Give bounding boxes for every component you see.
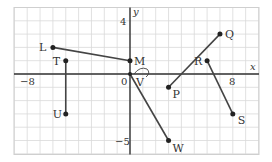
coordinate-plane: x y 0 −8 8 4 −5 LMTUVWPQRS [0, 0, 272, 162]
tick-label-y-4: 4 [120, 16, 126, 27]
point-p-marker [166, 85, 171, 90]
point-u-label: U [53, 108, 62, 121]
point-l-label: L [39, 41, 47, 54]
tick-label-x-neg8: −8 [20, 76, 35, 87]
point-v-marker [128, 72, 132, 76]
x-axis-label: x [250, 61, 256, 72]
point-t-label: T [53, 55, 61, 68]
point-r-marker [205, 58, 210, 63]
point-w-marker [166, 138, 171, 143]
y-axis-label: y [132, 6, 139, 17]
point-l-marker [50, 45, 55, 50]
point-v-label: V [135, 76, 145, 89]
point-q-marker [217, 32, 222, 37]
point-m-marker [128, 58, 133, 63]
point-r-label: R [194, 55, 203, 68]
point-p-label: P [173, 88, 181, 101]
tick-label-x-8: 8 [229, 76, 235, 87]
point-t-marker [63, 58, 68, 63]
point-m-label: M [134, 55, 145, 68]
point-s-label: S [238, 114, 246, 127]
origin-label: 0 [121, 76, 127, 87]
point-w-label: W [173, 142, 185, 155]
point-s-marker [230, 111, 235, 116]
point-u-marker [63, 111, 68, 116]
tick-label-y-neg5: −5 [115, 136, 130, 147]
point-q-label: Q [225, 28, 234, 41]
